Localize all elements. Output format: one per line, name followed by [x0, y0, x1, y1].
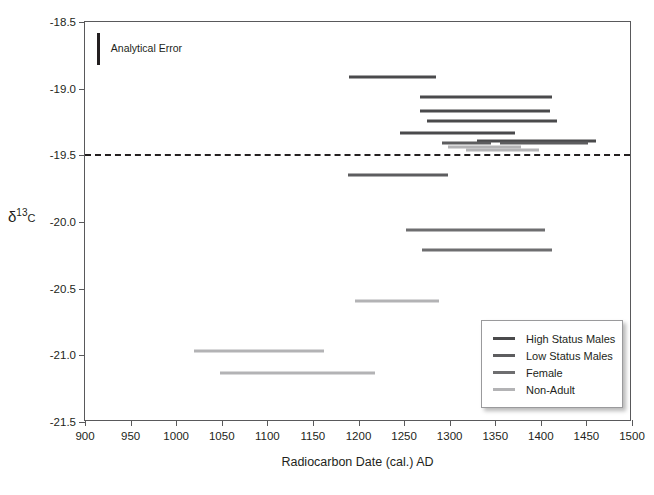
analytical-error-label: Analytical Error — [111, 42, 182, 54]
data-range-bar — [466, 149, 539, 152]
reference-line — [85, 154, 630, 156]
y-axis-tick-label: -20.5 — [50, 283, 76, 295]
y-axis-tick — [79, 22, 85, 23]
data-range-bar — [355, 299, 439, 302]
legend-item-non-adult: Non-Adult — [482, 381, 622, 398]
data-range-bar — [348, 174, 448, 177]
analytical-error-marker — [97, 33, 100, 65]
data-range-bar — [349, 75, 436, 78]
x-axis-tick-label: 1350 — [482, 430, 508, 442]
y-axis-tick-label: -21.0 — [50, 349, 76, 361]
legend-label: High Status Males — [526, 333, 615, 345]
x-axis-tick-label: 1400 — [528, 430, 554, 442]
x-axis-tick-label: 1500 — [619, 430, 645, 442]
x-axis-tick-label: 950 — [121, 430, 140, 442]
data-range-bar — [500, 142, 588, 145]
isotope-range-chart: -18.5-19.0-19.5-20.0-20.5-21.0-21.590095… — [0, 0, 654, 495]
legend-swatch — [493, 371, 515, 374]
x-axis-tick — [450, 420, 451, 426]
y-axis-tick-label: -21.5 — [50, 416, 76, 428]
x-axis-tick-label: 1150 — [301, 430, 326, 442]
x-axis-tick-label: 1050 — [209, 430, 235, 442]
x-axis-tick — [632, 420, 633, 426]
x-axis-tick-label: 1300 — [437, 430, 463, 442]
legend-label: Low Status Males — [526, 350, 613, 362]
data-range-bar — [420, 95, 551, 98]
x-axis-tick-label: 900 — [75, 430, 94, 442]
data-range-bar — [422, 249, 551, 252]
x-axis-tick — [85, 420, 86, 426]
data-range-bar — [420, 110, 549, 113]
y-axis-tick-label: -20.0 — [50, 216, 76, 228]
x-axis-tick-label: 1000 — [163, 430, 189, 442]
y-axis-tick — [79, 222, 85, 223]
data-range-bar — [442, 142, 490, 145]
legend-item-low-status-males: Low Status Males — [482, 347, 622, 364]
data-range-bar — [406, 229, 545, 232]
data-range-bar — [400, 131, 516, 134]
y-axis-tick-label: -18.5 — [50, 16, 76, 28]
x-axis-tick-label: 1100 — [255, 430, 280, 442]
x-axis-tick — [495, 420, 496, 426]
y-axis-title: δ13C — [8, 207, 35, 225]
data-range-bar — [427, 119, 557, 122]
legend-swatch — [493, 337, 515, 340]
y-axis-tick — [79, 355, 85, 356]
legend-item-female: Female — [482, 364, 622, 381]
legend-swatch — [493, 354, 515, 357]
x-axis-tick-label: 1450 — [574, 430, 600, 442]
chart-legend: High Status MalesLow Status MalesFemaleN… — [481, 320, 623, 408]
x-axis-tick — [404, 420, 405, 426]
legend-label: Female — [526, 367, 563, 379]
x-axis-tick — [541, 420, 542, 426]
x-axis-tick — [176, 420, 177, 426]
legend-item-high-status-males: High Status Males — [482, 330, 622, 347]
x-axis-tick — [222, 420, 223, 426]
y-axis-tick — [79, 89, 85, 90]
y-axis-tick-label: -19.5 — [50, 149, 76, 161]
x-axis-tick — [586, 420, 587, 426]
data-range-bar — [220, 371, 375, 374]
legend-label: Non-Adult — [526, 384, 575, 396]
x-axis-tick — [313, 420, 314, 426]
x-axis-tick-label: 1200 — [346, 430, 372, 442]
x-axis-tick — [131, 420, 132, 426]
x-axis-tick — [267, 420, 268, 426]
x-axis-title: Radiocarbon Date (cal.) AD — [84, 455, 631, 469]
legend-swatch — [493, 388, 515, 391]
y-axis-tick-label: -19.0 — [50, 83, 76, 95]
data-range-bar — [194, 350, 323, 353]
x-axis-tick-label: 1250 — [391, 430, 417, 442]
y-axis-tick — [79, 289, 85, 290]
x-axis-tick — [359, 420, 360, 426]
